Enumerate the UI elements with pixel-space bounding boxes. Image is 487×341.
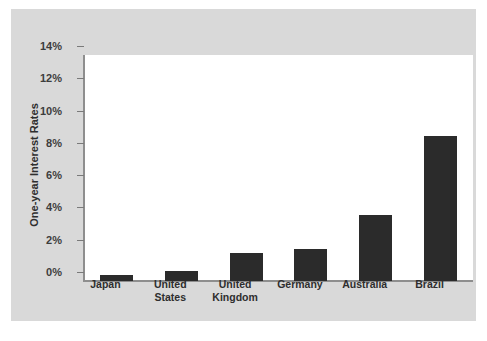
y-axis-tick-mark <box>77 111 84 112</box>
y-axis-tick-mark <box>77 143 84 144</box>
y-axis-title: One-year Interest Rates <box>28 95 40 235</box>
y-axis-tick-mark <box>77 46 84 47</box>
x-axis-category-label: Brazil <box>397 278 462 291</box>
bar <box>294 249 327 281</box>
bar <box>359 215 392 281</box>
bar <box>230 253 263 281</box>
y-axis-tick-mark <box>77 175 84 176</box>
y-axis-tick-mark <box>77 272 84 273</box>
category-label-line: Brazil <box>397 278 462 291</box>
category-label-line: Japan <box>73 278 138 291</box>
x-axis-category-label: UnitedStates <box>138 278 203 303</box>
y-axis-tick-label: 0% <box>11 267 62 278</box>
category-label-line: United <box>203 278 268 291</box>
figure-panel: 14%12%10%8%6%4%2%0% One-year Interest Ra… <box>11 9 476 321</box>
y-axis-tick-label: 2% <box>11 235 62 246</box>
y-axis-tick-mark <box>77 240 84 241</box>
category-label-line: Australia <box>332 278 397 291</box>
chart-screenshot: 14%12%10%8%6%4%2%0% One-year Interest Ra… <box>0 0 487 341</box>
y-axis-tick-label: 12% <box>11 73 62 84</box>
y-axis-tick-mark <box>77 78 84 79</box>
category-label-line: United <box>138 278 203 291</box>
x-axis-category-label: Japan <box>73 278 138 291</box>
category-label-line: States <box>138 291 203 304</box>
category-label-line: Germany <box>268 278 333 291</box>
bar <box>424 136 457 281</box>
x-axis-category-label: Australia <box>332 278 397 291</box>
x-axis-category-label: Germany <box>268 278 333 291</box>
y-axis-tick-label: 14% <box>11 41 62 52</box>
bar-series <box>84 55 473 281</box>
x-axis-category-label: UnitedKingdom <box>203 278 268 303</box>
category-label-line: Kingdom <box>203 291 268 304</box>
y-axis-tick-mark <box>77 207 84 208</box>
